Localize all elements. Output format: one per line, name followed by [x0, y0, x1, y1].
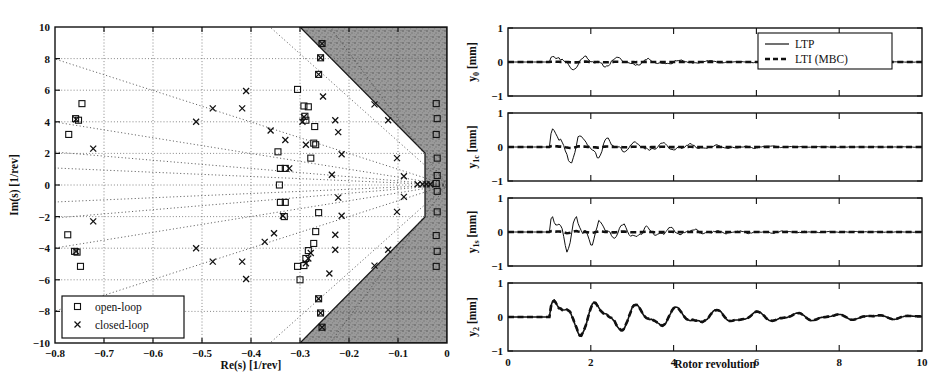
ytick-5: 0 [45, 179, 51, 191]
time-series-svg: 10−1y0 [mm]10−1y1c [mm]10−1y1s [mm]10−1y… [462, 0, 934, 390]
ytick-10: −10 [33, 337, 51, 349]
xtick-7: −0.1 [388, 347, 408, 359]
panel-y2-ytick-0: 1 [498, 277, 504, 289]
pole-map-ytick-labels: 1086420−2−4−6−8−10 [33, 21, 51, 349]
panel-y0-ytick-1: 0 [498, 56, 504, 68]
time-series-panel-y1c: 10−1y1c [mm] [466, 107, 922, 187]
ytick-4: 2 [45, 147, 51, 159]
time-series-panel-y2: 10−1y2 [mm]0246810 [466, 277, 928, 368]
time-series-panel: 10−1y0 [mm]10−1y1c [mm]10−1y1s [mm]10−1y… [462, 0, 934, 390]
ytick-7: −4 [38, 242, 50, 254]
legend-label-closed-loop: closed-loop [95, 319, 149, 332]
xtick-2: −0.6 [143, 347, 164, 359]
panel-y2-ylabel: y2 [mm] [466, 297, 481, 336]
pole-map-svg: −0.8−0.7−0.6−0.5−0.4−0.3−0.2−0.10 108642… [0, 0, 462, 390]
xtick-8: 0 [444, 347, 450, 359]
panel-y0-ylabel: y0 [mm] [466, 42, 481, 81]
pole-map-xtick-labels: −0.8−0.7−0.6−0.5−0.4−0.3−0.2−0.10 [45, 347, 450, 359]
panel-y1c-ytick-0: 1 [498, 107, 504, 119]
panel-y1c-ytick-2: −1 [491, 175, 503, 187]
ytick-9: −8 [38, 305, 50, 317]
panel-y1s-ytick-1: 0 [498, 226, 504, 238]
legend-label-open-loop: open-loop [95, 301, 142, 314]
panel-y1c-ylabel: y1c [mm] [466, 125, 481, 168]
panel-y1c-ytick-1: 0 [498, 141, 504, 153]
time-series-panel-y1s: 10−1y1s [mm] [466, 192, 922, 272]
pole-map-legend[interactable]: open-loop closed-loop [62, 296, 184, 338]
xtick-6: −0.2 [339, 347, 360, 359]
xtick-5: −0.3 [290, 347, 311, 359]
panel-y1s-ytick-0: 1 [498, 192, 504, 204]
pole-map-ylabel: Im(s) [1/rev] [8, 154, 21, 215]
ytick-8: −6 [38, 274, 50, 286]
ytick-1: 8 [45, 53, 51, 65]
xtick-3: −0.5 [192, 347, 213, 359]
figure-root: −0.8−0.7−0.6−0.5−0.4−0.3−0.2−0.10 108642… [0, 0, 934, 390]
ytick-2: 6 [45, 84, 51, 96]
ytick-3: 4 [45, 116, 51, 128]
panel-y0-ytick-0: 1 [498, 22, 504, 34]
xtick-1: −0.7 [94, 347, 115, 359]
ytick-6: −2 [38, 211, 50, 223]
figure-caption [0, 366, 934, 390]
panel-y0-ytick-2: −1 [491, 90, 503, 102]
panel-y2-ytick-2: −1 [491, 345, 503, 357]
xtick-4: −0.4 [241, 347, 262, 359]
pole-map-panel: −0.8−0.7−0.6−0.5−0.4−0.3−0.2−0.10 108642… [0, 0, 462, 390]
ts-legend-label-lti: LTI (MBC) [795, 53, 848, 66]
time-series-legend[interactable]: LTP LTI (MBC) [758, 33, 892, 69]
ts-legend-label-ltp: LTP [795, 38, 814, 50]
ytick-0: 10 [39, 21, 51, 33]
panel-y1s-ytick-2: −1 [491, 260, 503, 272]
panel-y1s-ylabel: y1s [mm] [466, 211, 481, 254]
panel-y2-ytick-1: 0 [498, 311, 504, 323]
